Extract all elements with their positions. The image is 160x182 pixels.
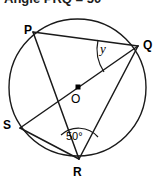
vertex-label-p: P — [24, 24, 32, 36]
vertex-label-s: S — [3, 119, 11, 131]
angle-label-50: 50° — [66, 131, 83, 142]
chord-qr — [79, 46, 138, 159]
circle-geometry-figure: Angle PRQ = 50° P Q S R O y 50° — [0, 0, 160, 182]
chord-pq — [33, 32, 138, 46]
vertex-label-q: Q — [143, 39, 152, 51]
angle-label-y: y — [100, 43, 106, 54]
centre-label-o: O — [71, 93, 80, 105]
vertex-label-r: R — [73, 166, 82, 178]
centre-dot-marker — [76, 85, 81, 90]
